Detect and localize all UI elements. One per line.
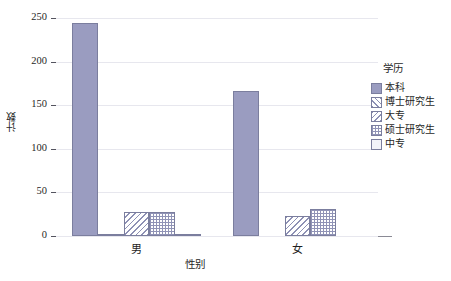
legend-item-label: 中专 [385,138,405,150]
legend-item[interactable]: 本科 [371,82,449,94]
legend-item-label: 博士研究生 [385,96,435,108]
legend-item[interactable]: 博士研究生 [371,96,449,108]
legend: 学历 本科博士研究生大专硕士研究生中专 [371,60,449,152]
legend-item[interactable]: 硕士研究生 [371,124,449,136]
gridline [56,62,378,63]
legend-title: 学历 [383,60,449,75]
bar [149,212,175,236]
legend-item-label: 大专 [385,110,405,122]
y-tick-label: 0 [5,229,47,240]
legend-swatch-icon [371,97,382,108]
y-axis-title: 计数 [6,112,22,132]
legend-swatch-icon [371,139,382,150]
gridline [56,192,378,193]
gridline [56,105,378,106]
bar [175,234,201,236]
legend-swatch-icon [371,83,382,94]
gridline [56,236,378,237]
bar [98,234,124,236]
bar-chart: 计数 050100150200250 男女 性别 学历 本科博士研究生大专硕士研… [0,0,451,281]
bar [285,216,311,236]
bar [310,209,336,236]
legend-item[interactable]: 大专 [371,110,449,122]
bar [233,91,259,236]
y-tick-label: 250 [5,11,47,22]
x-axis-title: 性别 [0,256,390,271]
legend-items: 本科博士研究生大专硕士研究生中专 [371,82,449,150]
y-tick-label: 100 [5,142,47,153]
legend-item-label: 硕士研究生 [385,124,435,136]
y-tick-label: 200 [5,55,47,66]
bar [72,23,98,236]
legend-item[interactable]: 中专 [371,138,449,150]
x-tick-label: 女 [268,240,328,256]
x-tick-label: 男 [107,240,167,256]
legend-item-label: 本科 [385,82,405,94]
bar [124,212,150,236]
y-tick-label: 50 [5,185,47,196]
legend-swatch-icon [371,111,382,122]
gridline [56,149,378,150]
gridline [56,18,378,19]
y-tick-label: 150 [5,98,47,109]
plot-area [56,18,378,236]
legend-swatch-icon [371,125,382,136]
